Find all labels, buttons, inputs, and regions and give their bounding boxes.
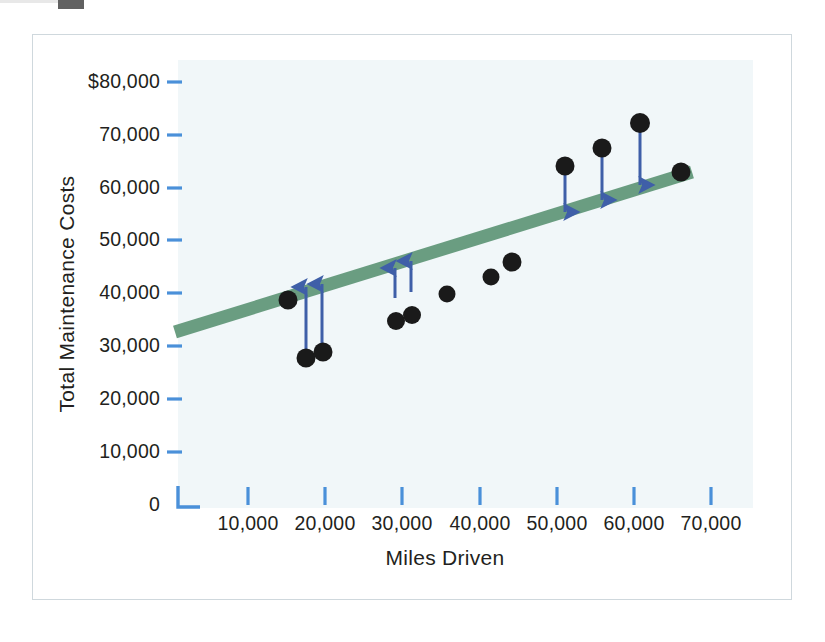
scatter-chart: $80,000 70,000 60,000 50,000 40,000 30,0… (0, 0, 825, 642)
data-point (630, 113, 650, 133)
y-tick-label: $80,000 (20, 70, 160, 93)
data-point (314, 343, 333, 362)
data-point (593, 139, 612, 158)
x-axis-title: Miles Driven (280, 546, 610, 570)
data-point (483, 269, 500, 286)
data-point (279, 291, 298, 310)
y-axis-ticks (167, 82, 182, 452)
y-tick-label: 20,000 (20, 387, 160, 410)
y-axis-title: Total Maintenance Costs (55, 164, 79, 424)
regression-line (175, 172, 692, 332)
data-point (387, 312, 405, 330)
figure-page: $80,000 70,000 60,000 50,000 40,000 30,0… (0, 0, 825, 642)
x-tick-label: 70,000 (651, 512, 771, 535)
data-point (297, 349, 316, 368)
y-tick-label: 0 (20, 493, 160, 516)
data-point (403, 306, 421, 324)
data-point (503, 253, 522, 272)
y-tick-label: 70,000 (20, 123, 160, 146)
x-axis-ticks (248, 487, 711, 505)
y-tick-label: 30,000 (20, 334, 160, 357)
y-tick-label: 10,000 (20, 440, 160, 463)
y-tick-label: 40,000 (20, 281, 160, 304)
data-point (672, 163, 691, 182)
y-tick-label: 60,000 (20, 176, 160, 199)
data-point (439, 286, 456, 303)
axis-corner-bracket (178, 486, 200, 507)
data-point (556, 157, 575, 176)
y-tick-label: 50,000 (20, 228, 160, 251)
